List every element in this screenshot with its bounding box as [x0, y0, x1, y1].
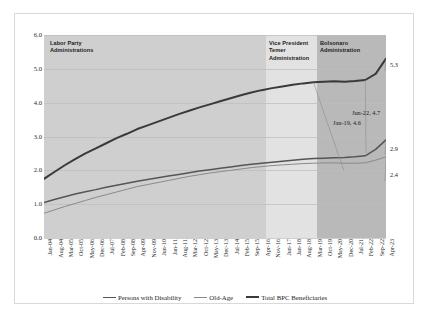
x-axis-tick-label: May-13 — [213, 239, 219, 258]
band-caption-bolsonaro: Bolsonaro Administration — [320, 40, 372, 55]
band-caption-labor-line1: Labor Party — [50, 40, 120, 47]
band-caption-labor-line2: Administrations — [50, 47, 120, 54]
x-axis-tick-label: Jan-18 — [296, 239, 302, 255]
legend-swatch — [246, 296, 259, 298]
band-caption-temer-line2: Temer — [269, 47, 317, 54]
x-axis-tick-label: Oct-05 — [78, 239, 84, 256]
x-axis: Jan-04Aug-04Mar-05Oct-05May-06Dec-06Jul-… — [44, 239, 386, 289]
band-caption-labor-party: Labor Party Administrations — [50, 40, 120, 55]
x-axis-tick-label: Oct-12 — [203, 239, 209, 256]
y-axis-tick-label: 4.0 — [20, 99, 42, 106]
x-axis-tick-label: Dec-06 — [99, 239, 105, 257]
x-axis-tick-label: Jan-04 — [47, 239, 53, 255]
band-caption-temer: Vice President Temer Administration — [269, 40, 317, 62]
x-axis-tick-label: Feb-08 — [120, 239, 126, 256]
x-axis-tick-label: May-20 — [337, 239, 343, 258]
legend-item[interactable]: Persons with Disability — [103, 294, 181, 301]
legend-label: Total BPC Beneficiaries — [261, 294, 327, 301]
x-axis-tick-label: Apr-16 — [265, 239, 271, 256]
series-lines — [44, 35, 386, 238]
x-axis-tick-label: Mar-05 — [68, 239, 74, 257]
x-axis-tick-label: Sep-08 — [130, 239, 136, 256]
x-axis-tick-label: Mar-12 — [192, 239, 198, 257]
x-axis-tick-label: Dec-20 — [348, 239, 354, 257]
y-axis-tick-label: 2.0 — [20, 166, 42, 173]
legend-item[interactable]: Total BPC Beneficiaries — [246, 294, 327, 301]
annotation-disability-end: 2.9 — [390, 145, 398, 152]
legend-swatch — [194, 297, 207, 298]
x-axis-tick-label: Jun-10 — [161, 239, 167, 256]
x-axis-tick-label: Nov-09 — [151, 239, 157, 258]
x-axis-tick-label: Aug-11 — [182, 239, 188, 257]
x-axis-tick-label: Feb-15 — [244, 239, 250, 256]
x-axis-tick-label: Jul-07 — [109, 239, 115, 254]
x-axis-tick-label: Mar-19 — [317, 239, 323, 257]
y-axis-tick-label: 5.0 — [20, 65, 42, 72]
legend-item[interactable]: Old-Age — [194, 294, 233, 301]
band-caption-bolsonaro-line1: Bolsonaro — [320, 40, 372, 47]
x-axis-tick-label: Dec-13 — [223, 239, 229, 257]
annotation-leader-line — [385, 157, 386, 181]
band-caption-temer-line3: Administration — [269, 55, 317, 62]
band-caption-temer-line1: Vice President — [269, 40, 317, 47]
y-axis-tick-label: 3.0 — [20, 133, 42, 140]
series-line — [44, 157, 386, 214]
y-axis-tick-label: 6.0 — [20, 31, 42, 38]
y-axis: 0.01.02.03.04.05.06.0 — [15, 14, 42, 238]
x-axis-tick-label: Jun-17 — [286, 239, 292, 256]
x-axis-tick-label: Aug-18 — [306, 239, 312, 258]
x-axis-tick-label: Feb-22 — [368, 239, 374, 256]
legend-label: Persons with Disability — [118, 294, 181, 301]
y-axis-tick-label: 1.0 — [20, 200, 42, 207]
legend-label: Old-Age — [209, 294, 233, 301]
annotation-jun22: Jun-22, 4.7 — [352, 109, 380, 116]
y-axis-tick-label: 0.0 — [20, 234, 42, 241]
chart-figure: 0.01.02.03.04.05.06.0 Labor Party Admini… — [14, 13, 414, 304]
annotation-leader-line — [385, 140, 386, 155]
x-axis-tick-label: Aug-04 — [58, 239, 64, 258]
band-caption-bolsonaro-line2: Administration — [320, 47, 372, 54]
x-axis-tick-label: Oct-19 — [327, 239, 333, 256]
annotation-leader-line — [365, 80, 366, 153]
x-axis-tick-label: Apr-09 — [140, 239, 146, 256]
chart-legend: Persons with DisabilityOld-AgeTotal BPC … — [15, 291, 415, 303]
annotation-jan19: Jan-19, 4.6 — [333, 119, 361, 126]
x-axis-tick-label: Sep-22 — [379, 239, 385, 256]
x-axis-tick-label: Jul-21 — [358, 239, 364, 254]
x-axis-tick-label: Nov-16 — [275, 239, 281, 258]
x-axis-tick-label: May-06 — [89, 239, 95, 258]
annotation-total-end: 5.3 — [390, 61, 398, 68]
x-axis-tick-label: Apr-23 — [389, 239, 395, 256]
annotation-oldage-end: 2.4 — [390, 171, 398, 178]
legend-swatch — [103, 297, 116, 298]
x-axis-tick-label: Jul-14 — [234, 239, 240, 254]
plot-area — [44, 35, 386, 238]
x-axis-tick-label: Jan-11 — [172, 239, 178, 255]
x-axis-tick-label: Sep-15 — [254, 239, 260, 256]
